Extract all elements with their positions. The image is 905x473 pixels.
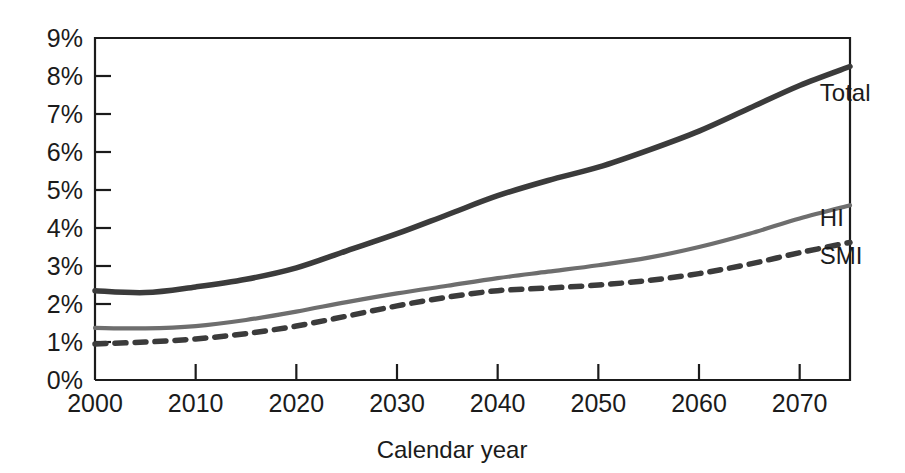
x-tick-label: 2000 [67, 389, 123, 417]
y-tick-label: 3% [47, 252, 83, 280]
y-axis-tick-labels: 0%1%2%3%4%5%6%7%8%9% [47, 24, 83, 394]
y-tick-label: 2% [47, 290, 83, 318]
y-tick-label: 5% [47, 176, 83, 204]
plot-frame [95, 38, 850, 380]
series-line-total [95, 67, 850, 293]
series-inline-labels: TotalHISMI [820, 79, 871, 269]
x-tick-label: 2010 [168, 389, 224, 417]
x-tick-label: 2030 [369, 389, 425, 417]
y-tick-label: 6% [47, 138, 83, 166]
x-tick-label: 2040 [470, 389, 526, 417]
y-axis-ticks [95, 76, 111, 342]
series-label-total: Total [820, 79, 871, 106]
axis-frame [95, 38, 850, 380]
medicare-cost-projection-chart: 0%1%2%3%4%5%6%7%8%9% 2000201020202030204… [0, 0, 905, 473]
data-series-group [95, 67, 850, 344]
chart-container: 0%1%2%3%4%5%6%7%8%9% 2000201020202030204… [0, 0, 905, 473]
x-axis-title: Calendar year [377, 436, 528, 463]
y-tick-label: 8% [47, 62, 83, 90]
x-tick-label: 2060 [671, 389, 727, 417]
x-axis-ticks [196, 364, 800, 380]
x-tick-label: 2020 [269, 389, 325, 417]
series-label-hi: HI [820, 204, 844, 231]
y-tick-label: 4% [47, 214, 83, 242]
x-axis-tick-labels: 20002010202020302040205020602070 [67, 389, 827, 417]
y-tick-label: 1% [47, 328, 83, 356]
series-line-smi [95, 242, 850, 343]
x-tick-label: 2050 [571, 389, 627, 417]
y-tick-label: 7% [47, 100, 83, 128]
x-tick-label: 2070 [772, 389, 828, 417]
y-tick-label: 9% [47, 24, 83, 52]
series-label-smi: SMI [820, 242, 863, 269]
